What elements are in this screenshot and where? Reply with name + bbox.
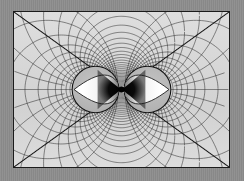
plot-frame — [13, 11, 230, 168]
figure-root — [0, 0, 244, 181]
field-diagram-svg — [14, 12, 229, 167]
center-node-dot — [119, 87, 125, 93]
